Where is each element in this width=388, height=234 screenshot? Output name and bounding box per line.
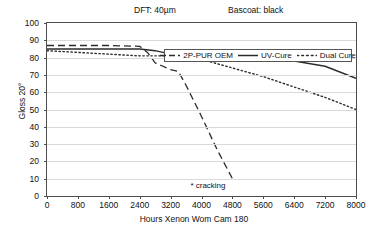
header-dft-label: DFT: 40µm — [134, 5, 176, 15]
y-tick-80 — [44, 58, 47, 59]
y-tick-70 — [44, 75, 47, 76]
y-tick-10 — [44, 179, 47, 180]
x-tick-800 — [78, 196, 79, 199]
gridline-y-60 — [47, 92, 356, 93]
gridline-y-50 — [47, 110, 356, 111]
y-tick-label-80: 80 — [9, 54, 39, 62]
gridline-y-70 — [47, 75, 356, 76]
y-tick-label-50: 50 — [9, 106, 39, 114]
y-tick-label-90: 90 — [9, 36, 39, 44]
x-tick-7200 — [325, 196, 326, 199]
y-tick-40 — [44, 127, 47, 128]
y-tick-50 — [44, 110, 47, 111]
x-tick-1600 — [109, 196, 110, 199]
x-tick-3200 — [171, 196, 172, 199]
y-tick-label-70: 70 — [9, 71, 39, 79]
y-tick-label-0: 0 — [9, 192, 39, 200]
legend-label-uv-cure: UV-Cure — [261, 52, 292, 60]
y-tick-60 — [44, 92, 47, 93]
y-tick-label-10: 10 — [9, 175, 39, 183]
gridline-y-20 — [47, 161, 356, 162]
x-tick-6400 — [294, 196, 295, 199]
y-tick-label-40: 40 — [9, 123, 39, 131]
gloss-retention-chart: DFT: 40µm Bascoat: black Gloss 20° Hours… — [0, 0, 388, 234]
legend-item-2p-pur-oem: 2P-PUR OEM — [160, 52, 233, 60]
legend-item-uv-cure: UV-Cure — [238, 52, 292, 60]
y-tick-label-30: 30 — [9, 140, 39, 148]
x-tick-4000 — [202, 196, 203, 199]
legend: 2P-PUR OEM UV-Cure Dual Cure — [164, 49, 352, 62]
x-tick-5600 — [263, 196, 264, 199]
gridline-y-30 — [47, 144, 356, 145]
legend-swatch-dashed — [160, 52, 180, 59]
y-tick-100 — [44, 23, 47, 24]
x-tick-8000 — [356, 196, 357, 199]
legend-label-dual-cure: Dual Cure — [320, 52, 356, 60]
x-axis-title: Hours Xenon Wom Cam 180 — [0, 214, 388, 224]
legend-item-dual-cure: Dual Cure — [297, 52, 356, 60]
y-tick-label-100: 100 — [9, 19, 39, 27]
legend-swatch-solid — [238, 52, 258, 59]
header-basecoat-label: Bascoat: black — [228, 5, 283, 15]
y-tick-90 — [44, 40, 47, 41]
y-tick-label-20: 20 — [9, 157, 39, 165]
x-tick-2400 — [140, 196, 141, 199]
plot-area: 2P-PUR OEM UV-Cure Dual Cure * cracking — [46, 22, 357, 197]
y-tick-30 — [44, 144, 47, 145]
chart-header: DFT: 40µm Bascoat: black — [0, 5, 388, 19]
legend-label-2p-pur-oem: 2P-PUR OEM — [183, 52, 233, 60]
series-line-2p-pur-oem — [47, 45, 232, 178]
x-tick-4800 — [232, 196, 233, 199]
cracking-annotation: * cracking — [190, 181, 225, 190]
legend-swatch-dotted — [297, 52, 317, 59]
gridline-y-90 — [47, 40, 356, 41]
y-tick-20 — [44, 161, 47, 162]
x-tick-0 — [47, 196, 48, 199]
gridline-y-40 — [47, 127, 356, 128]
x-tick-label-8000: 8000 — [336, 201, 376, 210]
y-tick-label-60: 60 — [9, 88, 39, 96]
gridline-y-10 — [47, 179, 356, 180]
